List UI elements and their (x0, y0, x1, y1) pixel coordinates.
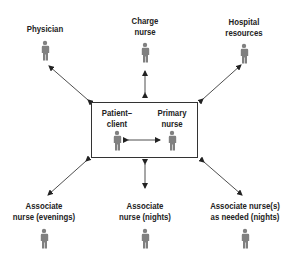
hospital-resources-person-icon (241, 44, 248, 64)
physician-label: Physician (12, 23, 78, 34)
primary-nurse-label-line1: Primary (143, 107, 200, 118)
associate-nights-label-line2: nurse (nights) (112, 211, 178, 222)
associate-as-needed-label: Associate nurse(s) as needed (nights) (204, 200, 286, 222)
charge-nurse-person-icon (142, 43, 149, 63)
physician-label-line1: Physician (12, 23, 78, 34)
hospital-resources-label-line1: Hospital (211, 16, 277, 27)
associate-nights-person-icon (142, 229, 149, 249)
associate-evenings-label-line2: nurse (evenings) (11, 211, 77, 222)
patient-client-label-line1: Patient– (88, 107, 145, 118)
patient-client-label: Patient– client (88, 107, 145, 129)
charge-nurse-label: Charge nurse (112, 15, 178, 37)
charge-nurse-label-line2: nurse (112, 26, 178, 37)
physician-person-icon (42, 41, 49, 61)
associate-as-needed-person-icon (242, 229, 249, 249)
associate-evenings-person-icon (41, 229, 48, 249)
associate-nights-label: Associate nurse (nights) (112, 200, 178, 222)
associate-evenings-label: Associate nurse (evenings) (11, 200, 77, 222)
associate-as-needed-label-line1: Associate nurse(s) (204, 200, 286, 211)
primary-nurse-label-line2: nurse (143, 118, 200, 129)
hospital-resources-label-line2: resources (211, 27, 277, 38)
patient-client-label-line2: client (88, 118, 145, 129)
associate-as-needed-label-line2: as needed (nights) (204, 211, 286, 222)
hospital-resources-label: Hospital resources (211, 16, 277, 38)
primary-nurse-label: Primary nurse (143, 107, 200, 129)
primary-nursing-diagram: Physician Charge nurse Hospital resource… (0, 0, 286, 263)
associate-nights-label-line1: Associate (112, 200, 178, 211)
associate-evenings-label-line1: Associate (11, 200, 77, 211)
charge-nurse-label-line1: Charge (112, 15, 178, 26)
